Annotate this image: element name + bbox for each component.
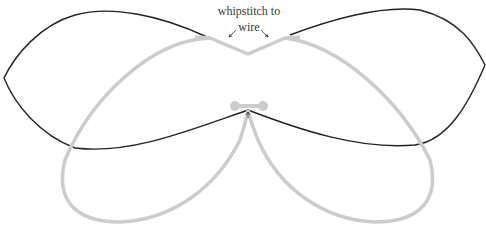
wire-right-loop — [248, 38, 433, 222]
annotation-line-1: whipstitch to — [199, 3, 299, 19]
annotation-label: whipstitch to wire — [199, 3, 299, 35]
wire-top-v — [195, 37, 300, 54]
annotation-line-2: wire — [199, 19, 299, 35]
wire-left-loop — [62, 38, 248, 222]
